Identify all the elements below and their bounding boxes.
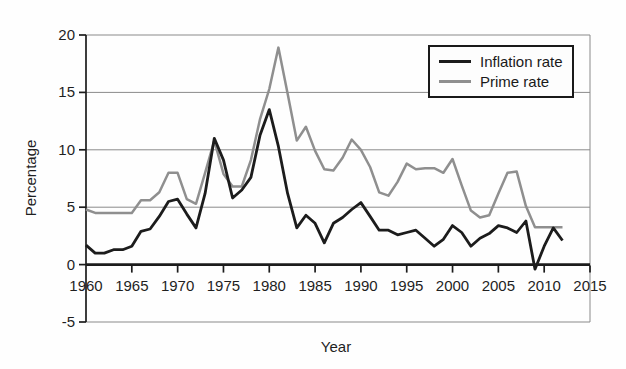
- x-tick-label-2000: 2000: [436, 277, 469, 294]
- y-tick-label-0: 0: [67, 256, 75, 273]
- y-tick-label-5: 5: [67, 198, 75, 215]
- x-tick-label-2015: 2015: [573, 277, 606, 294]
- legend-label-prime-rate: Prime rate: [480, 73, 549, 90]
- y-axis-title: Percentage: [22, 140, 39, 217]
- x-tick-label-1970: 1970: [161, 277, 194, 294]
- x-tick-label-2010: 2010: [527, 277, 560, 294]
- x-tick-label-1985: 1985: [298, 277, 331, 294]
- y-tick-label--5: -5: [62, 313, 75, 330]
- x-tick-label-1975: 1975: [207, 277, 240, 294]
- x-tick-label-1960: 1960: [69, 277, 102, 294]
- legend: Inflation rate Prime rate: [428, 45, 574, 98]
- y-tick-label-10: 10: [58, 141, 75, 158]
- inflation-rate-line-swatch: [439, 60, 471, 63]
- x-tick-label-1990: 1990: [344, 277, 377, 294]
- x-tick-label-1995: 1995: [390, 277, 423, 294]
- legend-label-inflation-rate: Inflation rate: [480, 53, 563, 70]
- x-tick-label-2005: 2005: [482, 277, 515, 294]
- x-axis-title: Year: [321, 338, 351, 355]
- x-tick-label-1980: 1980: [253, 277, 286, 294]
- x-tick-label-1965: 1965: [115, 277, 148, 294]
- y-tick-label-15: 15: [58, 83, 75, 100]
- series-line-inflation-rate: [86, 110, 563, 270]
- prime-rate-line-swatch: [439, 80, 471, 83]
- legend-item-inflation-rate: Inflation rate: [439, 52, 566, 71]
- inflation-prime-rate-chart: 20151050-5196019651970197519801985199019…: [0, 0, 626, 369]
- y-tick-label-20: 20: [58, 26, 75, 43]
- legend-item-prime-rate: Prime rate: [439, 72, 566, 91]
